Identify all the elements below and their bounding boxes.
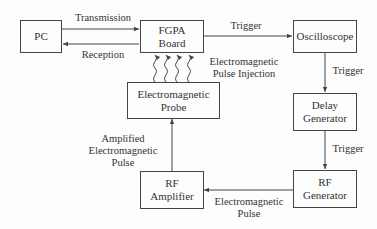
rf-generator-label-line2: Generator	[303, 189, 347, 202]
oscilloscope-label: Oscilloscope	[297, 30, 354, 43]
amplified-label-line1: Amplified	[87, 133, 159, 145]
probe-label-line1: Electromagnetic	[137, 88, 209, 101]
oscilloscope-node: Oscilloscope	[293, 20, 357, 53]
rf-generator-node: RF Generator	[293, 170, 357, 208]
em-pulse-label: Electromagnetic Pulse	[213, 196, 285, 220]
reception-label: Reception	[78, 49, 128, 61]
injection-label-line2: Pulse Injection	[209, 68, 279, 80]
probe-label-line2: Probe	[161, 101, 187, 114]
em-pulse-label-line1: Electromagnetic	[213, 196, 285, 208]
rf-amplifier-label-line2: Amplifier	[150, 190, 193, 203]
amplified-label-line2: Electromagnetic	[87, 145, 159, 157]
injection-waves-icon	[154, 55, 191, 82]
electromagnetic-probe-node: Electromagnetic Probe	[127, 82, 220, 119]
amplified-pulse-label: Amplified Electromagnetic Pulse	[87, 133, 159, 169]
amplified-label-line3: Pulse	[87, 157, 159, 169]
pc-node: PC	[20, 20, 62, 53]
trigger-label-fpga-osc: Trigger	[228, 20, 264, 32]
em-pulse-label-line2: Pulse	[213, 208, 285, 220]
delay-generator-node: Delay Generator	[293, 93, 357, 131]
fpga-label-line2: Board	[159, 37, 186, 50]
fpga-board-node: FGPA Board	[140, 20, 204, 53]
delay-label-line1: Delay	[312, 99, 338, 112]
rf-generator-label-line1: RF	[318, 176, 331, 189]
trigger-label-osc-delay: Trigger	[330, 65, 366, 77]
rf-amplifier-node: RF Amplifier	[140, 171, 204, 209]
fpga-label-line1: FGPA	[158, 24, 185, 37]
injection-label-line1: Electromagnetic	[209, 56, 279, 68]
transmission-label: Transmission	[72, 12, 134, 24]
injection-label: Electromagnetic Pulse Injection	[209, 56, 279, 80]
trigger-label-delay-rfgen: Trigger	[330, 143, 366, 155]
pc-label: PC	[34, 30, 47, 43]
rf-amplifier-label-line1: RF	[165, 177, 178, 190]
delay-label-line2: Generator	[303, 112, 347, 125]
